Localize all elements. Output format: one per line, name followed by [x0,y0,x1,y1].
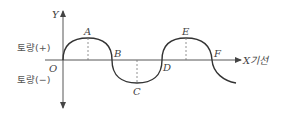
mass-curve-diagram: Y X기선 O 토량(+) 토량(−) A B C D E F [0,0,284,113]
point-c-label: C [133,86,141,97]
point-f-label: F [213,48,222,59]
origin-label: O [49,63,57,74]
mass-curve [63,38,236,83]
y-axis-label: Y [52,9,60,20]
negative-volume-label: 토량(−) [17,74,50,85]
point-d-label: D [162,62,171,73]
point-a-label: A [83,26,91,37]
point-b-label: B [113,48,121,59]
x-axis-label: X기선 [242,55,270,66]
positive-volume-label: 토량(+) [17,42,50,53]
point-e-label: E [181,26,190,37]
